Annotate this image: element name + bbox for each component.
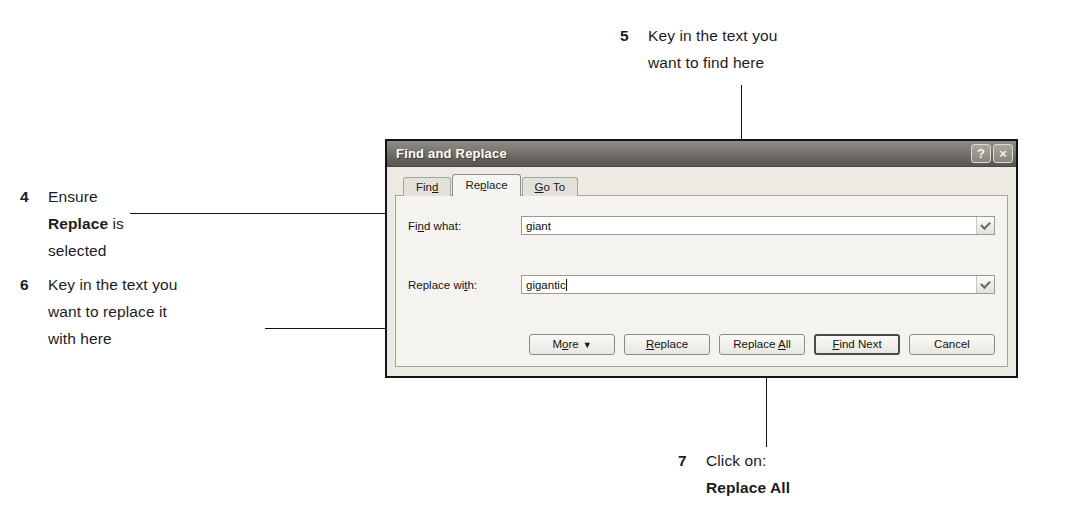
replace-with-input: gigantic	[526, 279, 566, 291]
dialog-body: Find Replace Go To Find what: giant Repl…	[387, 167, 1016, 376]
find-what-label-pre: Fi	[408, 220, 418, 232]
find-what-label: Find what:	[408, 220, 521, 232]
step-text-emphasis: Replace All	[706, 479, 790, 496]
chevron-down-icon: ▼	[583, 340, 592, 350]
leader-line-step-7	[766, 369, 767, 447]
tab-find-accel: d	[432, 181, 438, 193]
tab-go-to-accel: G	[535, 181, 544, 193]
cancel-button-label: Cancel	[934, 338, 970, 350]
step-text: Key in the text you want to replace it w…	[48, 271, 230, 352]
dialog-tabstrip: Find Replace Go To	[395, 174, 1008, 196]
replace-button-post: eplace	[654, 338, 688, 350]
replace-all-button-accel: A	[778, 338, 786, 350]
step-text-line-2-rest: is	[108, 215, 124, 232]
step-text-line-1: Ensure	[48, 183, 170, 210]
more-button-pre: M	[552, 338, 562, 350]
find-what-dropdown-button[interactable]	[976, 217, 994, 234]
step-text-line-2: Replace All	[706, 474, 898, 501]
step-text-line-1: Click on:	[706, 447, 898, 474]
find-what-row: Find what: giant	[408, 216, 995, 235]
tab-find-label: Fin	[416, 181, 432, 193]
step-text-line-3: selected	[48, 237, 170, 264]
replace-with-label-pre: Replace wi	[408, 279, 464, 291]
step-text-emphasis: Replace	[48, 215, 108, 232]
tab-find[interactable]: Find	[403, 177, 451, 196]
close-icon[interactable]: ×	[993, 144, 1013, 163]
dialog-title: Find and Replace	[396, 146, 969, 161]
step-number: 4	[20, 183, 29, 210]
help-icon[interactable]: ?	[971, 144, 991, 163]
step-text-line-3: with here	[48, 325, 230, 352]
step-text: Key in the text you want to find here	[648, 22, 850, 76]
step-text-line-1: Key in the text you	[48, 271, 230, 298]
step-text-line-2: Replace is	[48, 210, 170, 237]
more-button-post: re	[568, 338, 578, 350]
find-next-button-post: ind Next	[839, 338, 881, 350]
replace-with-row: Replace with: gigantic	[408, 275, 995, 294]
callout-step-7: 7 Click on: Replace All	[678, 447, 898, 501]
callout-step-6: 6 Key in the text you want to replace it…	[20, 271, 230, 352]
replace-all-button[interactable]: Replace All	[719, 334, 805, 355]
replace-all-button-post: ll	[786, 338, 791, 350]
step-text-line-1: Key in the text you	[648, 22, 850, 49]
text-cursor	[566, 279, 567, 291]
replace-with-input-wrap[interactable]: gigantic	[522, 279, 976, 291]
tab-go-to-tail: o To	[544, 181, 566, 193]
dialog-button-row: More▼ Replace Replace All Find Next Canc…	[408, 334, 995, 355]
find-and-replace-dialog: Find and Replace ? × Find Replace Go To …	[385, 139, 1018, 378]
more-button[interactable]: More▼	[529, 334, 615, 355]
tab-go-to[interactable]: Go To	[522, 177, 578, 196]
step-text: Click on: Replace All	[706, 447, 898, 501]
tab-replace-label: Re	[465, 179, 480, 191]
callout-step-4: 4 Ensure Replace is selected	[20, 183, 170, 264]
dialog-titlebar[interactable]: Find and Replace ? ×	[387, 141, 1016, 167]
chevron-down-icon	[980, 278, 991, 289]
replace-with-dropdown-button[interactable]	[976, 276, 994, 293]
step-text: Ensure Replace is selected	[48, 183, 170, 264]
step-number: 7	[678, 447, 687, 474]
step-number: 5	[620, 22, 629, 49]
replace-all-button-pre: Replace	[733, 338, 778, 350]
replace-button-accel: R	[646, 338, 654, 350]
replace-with-combobox[interactable]: gigantic	[521, 275, 995, 294]
step-text-line-2: want to find here	[648, 49, 850, 76]
find-what-input[interactable]: giant	[522, 220, 976, 232]
callout-step-5: 5 Key in the text you want to find here	[620, 22, 850, 76]
tab-replace[interactable]: Replace	[452, 174, 520, 196]
step-number: 6	[20, 271, 29, 298]
cancel-button[interactable]: Cancel	[909, 334, 995, 355]
tab-replace-tail: lace	[487, 179, 508, 191]
chevron-down-icon	[980, 219, 991, 230]
replace-button[interactable]: Replace	[624, 334, 710, 355]
replace-with-label: Replace with:	[408, 279, 521, 291]
find-what-label-post: d what:	[424, 220, 461, 232]
replace-tab-panel: Find what: giant Replace with: gigantic …	[395, 195, 1008, 367]
replace-with-label-post: h:	[467, 279, 477, 291]
step-text-line-2: want to replace it	[48, 298, 230, 325]
find-what-combobox[interactable]: giant	[521, 216, 995, 235]
find-next-button[interactable]: Find Next	[814, 334, 900, 355]
